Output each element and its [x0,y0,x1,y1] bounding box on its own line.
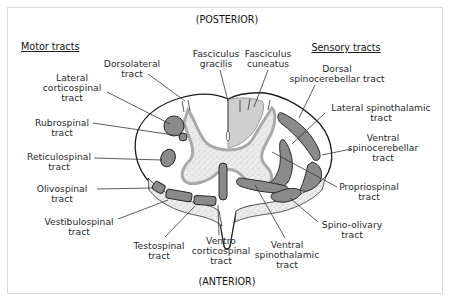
septum-notch [226,131,229,141]
motor-tracts-header: Motor tracts [21,41,79,52]
svg-text:tract: tract [341,229,363,240]
svg-text:spinocerebellar tract: spinocerebellar tract [289,73,385,84]
spinal-cord-diagram: (POSTERIOR) (ANTERIOR) Motor tracts Sens… [0,0,451,301]
svg-text:tract: tract [61,92,83,103]
svg-text:tract: tract [210,255,232,266]
svg-text:tract: tract [148,250,170,261]
label-ventral-spinocerebellar-tract: Ventral spinocerebellar tract [322,132,418,163]
label-fasciculus-gracilis: Fasciculus gracilis [193,48,240,101]
svg-text:tract: tract [276,259,298,270]
svg-text:cuneatus: cuneatus [247,58,289,69]
svg-text:tract: tract [68,226,90,237]
svg-text:tract: tract [51,193,73,204]
svg-text:tract: tract [121,68,143,79]
anterior-label: (ANTERIOR) [199,276,256,287]
svg-text:tract: tract [372,152,394,163]
label-olivospinal-tract: Olivospinal tract [37,183,152,204]
sensory-tracts-header: Sensory tracts [311,42,380,53]
ventro-corticospinal-tract-shape [219,163,227,200]
svg-text:tract: tract [48,161,70,172]
rubrospinal-tract-shape [179,133,187,141]
label-spino-olivary-tract: Spino-olivary tract [290,198,383,240]
svg-text:tract: tract [358,191,380,202]
label-dorsolateral-tract: Dorsolateral tract [104,58,185,101]
testospinal-tract-shape [194,195,217,206]
posterior-label: (POSTERIOR) [196,14,259,25]
svg-text:tract: tract [370,112,392,123]
label-testospinal-tract: Testospinal tract [133,206,195,261]
label-vestibulospinal-tract: Vestibulospinal tract [44,200,168,237]
svg-text:tract: tract [51,127,73,138]
svg-text:gracilis: gracilis [200,58,233,69]
